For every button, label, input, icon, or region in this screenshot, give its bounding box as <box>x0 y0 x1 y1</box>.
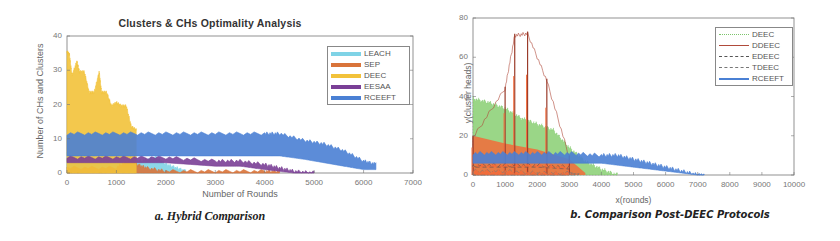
x-tick-label: 2000 <box>152 178 180 187</box>
legend-label: DEEC <box>364 71 386 80</box>
legend-label: EESAA <box>364 82 391 91</box>
legend-label: RCEEFT <box>364 93 396 102</box>
legend: LEACHSEPDEECEESAARCEEFT <box>327 46 410 105</box>
figure-caption: b. Comparison Post-DEEC Protocols <box>460 209 840 220</box>
legend-item-rceeft: RCEEFT <box>331 92 406 103</box>
figure-caption: a. Hybrid Comparison <box>0 209 420 224</box>
legend-item-eesaa: EESAA <box>331 81 406 92</box>
legend-label: DDEEC <box>752 41 780 50</box>
y-tick-label: 80 <box>453 13 468 22</box>
legend-label: DEEC <box>752 30 774 39</box>
legend-item-edeec: EDEEC <box>719 51 789 62</box>
x-tick-label: 9000 <box>748 180 776 189</box>
legend-item-tdeec: TDEEC <box>719 62 789 73</box>
y-tick-label: 20 <box>47 100 62 109</box>
y-tick-label: 0 <box>47 168 62 177</box>
chart-panel-hybrid-comparison: Clusters & CHs Optimality Analysis 01000… <box>0 0 420 241</box>
x-tick-label: 10000 <box>780 180 808 189</box>
legend-swatch-icon <box>719 78 749 80</box>
legend-swatch-icon <box>719 67 749 68</box>
x-tick-label: 0 <box>53 178 81 187</box>
y-axis-label: y(cluster heads) <box>463 43 473 143</box>
x-tick-label: 4000 <box>587 180 615 189</box>
y-axis-label: Number of CHs and Clusters <box>35 31 45 171</box>
x-tick-label: 4000 <box>251 178 279 187</box>
legend-label: RCEEFT <box>752 74 784 83</box>
x-tick-label: 3000 <box>555 180 583 189</box>
legend-swatch-icon <box>331 96 361 100</box>
legend-label: SEP <box>364 60 380 69</box>
y-tick-label: 0 <box>453 170 468 179</box>
legend-label: EDEEC <box>752 52 780 61</box>
x-tick-label: 7000 <box>684 180 712 189</box>
x-tick-label: 6000 <box>350 178 378 187</box>
legend-swatch-icon <box>719 45 749 46</box>
x-axis-label: Number of Rounds <box>67 189 413 199</box>
x-tick-label: 0 <box>459 180 487 189</box>
legend-item-sep: SEP <box>331 59 406 70</box>
y-tick-label: 30 <box>47 65 62 74</box>
x-axis-label: x(rounds) <box>473 195 794 205</box>
legend-label: TDEEC <box>752 63 779 72</box>
legend-swatch-icon <box>331 52 361 56</box>
legend-label: LEACH <box>364 49 391 58</box>
legend-swatch-icon <box>331 63 361 67</box>
x-tick-label: 8000 <box>716 180 744 189</box>
legend-swatch-icon <box>719 34 749 35</box>
y-tick-label: 10 <box>47 134 62 143</box>
x-tick-label: 1000 <box>102 178 130 187</box>
x-tick-label: 6000 <box>652 180 680 189</box>
x-tick-label: 2000 <box>523 180 551 189</box>
legend-item-ddeec: DDEEC <box>719 40 789 51</box>
chart-panel-post-deec-comparison: 0100020003000400050006000700080009000100… <box>420 0 840 241</box>
x-tick-label: 3000 <box>201 178 229 187</box>
legend-swatch-icon <box>331 85 361 89</box>
legend-item-deec: DEEC <box>719 29 789 40</box>
x-tick-label: 5000 <box>620 180 648 189</box>
plot-area <box>0 0 420 241</box>
legend-swatch-icon <box>331 74 361 78</box>
x-tick-label: 5000 <box>300 178 328 187</box>
y-tick-label: 40 <box>47 31 62 40</box>
legend-item-rceeft: RCEEFT <box>719 73 789 84</box>
legend-swatch-icon <box>719 56 749 57</box>
x-tick-label: 1000 <box>491 180 519 189</box>
legend: DEECDDEECEDEECTDEECRCEEFT <box>715 27 793 86</box>
legend-item-deec: DEEC <box>331 70 406 81</box>
legend-item-leach: LEACH <box>331 48 406 59</box>
